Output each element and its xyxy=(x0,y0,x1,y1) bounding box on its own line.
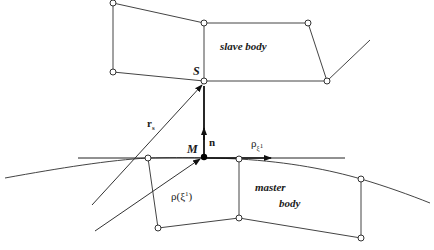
node xyxy=(324,78,330,84)
label-slave-body: slave body xyxy=(220,40,267,52)
r-s-sub: s xyxy=(152,124,155,132)
node xyxy=(110,0,116,6)
master-surface-curve xyxy=(5,158,430,203)
label-master-body-2: body xyxy=(279,197,300,209)
label-master-body-1: master xyxy=(255,181,286,193)
node xyxy=(155,225,161,231)
label-normal-n: n xyxy=(209,136,215,148)
position-vector-rs-arrow xyxy=(92,85,202,205)
label-rho-xi1: ρ(ξ1) xyxy=(171,190,192,202)
rho-deriv-sup: 1 xyxy=(260,142,264,150)
node xyxy=(236,156,242,162)
label-point-S: S xyxy=(193,64,200,79)
node xyxy=(110,69,116,75)
node-S xyxy=(201,78,207,84)
rho-arg-main: ρ(ξ xyxy=(171,190,185,202)
contact-mechanics-diagram xyxy=(0,0,434,250)
node xyxy=(236,215,242,221)
label-r-s: rs xyxy=(147,117,155,132)
contact-point-M xyxy=(201,154,207,160)
node xyxy=(145,155,151,161)
node xyxy=(201,20,207,26)
label-point-M: M xyxy=(187,142,198,157)
label-rho-derivative: ρξ1 xyxy=(251,137,263,152)
node xyxy=(305,20,311,26)
rho-arg-close: ) xyxy=(189,190,193,202)
node xyxy=(358,235,364,241)
node xyxy=(358,176,364,182)
